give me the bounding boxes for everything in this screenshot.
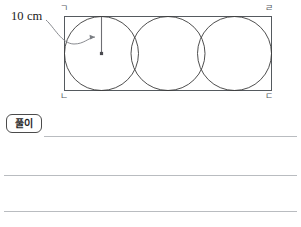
vertex-label-bottom-left: ㄴ	[60, 92, 68, 101]
rectangle-outline	[65, 17, 272, 91]
solution-section: 풀이	[0, 110, 301, 227]
worksheet-page: 10 cm ㄱ ㄹ ㄴ ㄷ 풀이	[0, 0, 301, 227]
circle-3	[198, 17, 272, 91]
answer-write-line[interactable]	[44, 136, 297, 137]
solution-badge: 풀이	[6, 114, 42, 133]
geometry-figure: 10 cm ㄱ ㄹ ㄴ ㄷ	[0, 0, 301, 110]
circle-2	[131, 17, 205, 91]
leader-arrow-head	[90, 35, 96, 40]
circle-center-dot	[100, 52, 103, 55]
figure-canvas	[0, 0, 301, 110]
vertex-label-bottom-right: ㄷ	[265, 92, 273, 101]
vertex-label-top-right: ㄹ	[265, 4, 273, 13]
answer-write-line[interactable]	[4, 175, 297, 176]
solution-badge-label: 풀이	[15, 119, 32, 129]
dimension-label-10cm: 10 cm	[11, 9, 42, 24]
answer-write-line[interactable]	[4, 211, 297, 212]
leader-arrow-curve	[46, 20, 95, 44]
vertex-label-top-left: ㄱ	[60, 4, 68, 13]
